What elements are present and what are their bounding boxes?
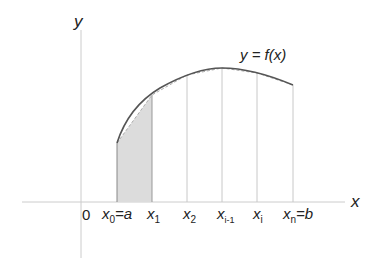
label-xi-1: xi-1 bbox=[216, 205, 235, 225]
label-xn: xn=b bbox=[282, 205, 313, 225]
curve-label: y = f(x) bbox=[239, 46, 286, 63]
label-xi: xi bbox=[252, 205, 263, 225]
curve-label-text: y = f(x) bbox=[239, 46, 286, 63]
origin-label: 0 bbox=[82, 206, 90, 223]
trapezoid-diagram: y x 0 y = f(x) x0=a x1 x2 xi-1 xi xn=b bbox=[0, 0, 379, 270]
label-x0: x0=a bbox=[101, 205, 132, 225]
y-axis-label: y bbox=[73, 12, 84, 31]
x-axis-label: x bbox=[350, 192, 360, 211]
label-x2: x2 bbox=[182, 205, 197, 225]
label-x1: x1 bbox=[146, 205, 161, 225]
